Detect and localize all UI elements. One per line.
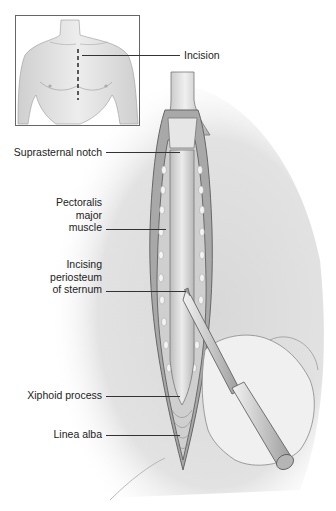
illustration: Incision Suprasternal notch Pectoralis m… xyxy=(0,0,336,511)
label-line: of sternum xyxy=(0,283,102,296)
suprasternal-notch-leader-line xyxy=(106,152,180,153)
label-incision: Incision xyxy=(184,49,220,62)
label-xiphoid-process: Xiphoid process xyxy=(0,389,102,402)
pectoralis-leader-line xyxy=(106,229,166,230)
label-suprasternal-notch: Suprasternal notch xyxy=(0,146,102,159)
label-linea-alba: Linea alba xyxy=(0,428,102,441)
inset-torso xyxy=(16,16,140,126)
sternum xyxy=(170,150,194,405)
linea-alba-leader-line xyxy=(106,435,180,436)
label-line: muscle xyxy=(0,221,102,234)
xiphoid-leader-line xyxy=(106,396,180,397)
periosteum-leader-line xyxy=(106,291,186,292)
label-line: periosteum xyxy=(0,271,102,284)
label-line: major xyxy=(0,209,102,222)
suprasternal-notch-area xyxy=(168,118,197,148)
incision-leader-line xyxy=(82,55,180,56)
label-incising-periosteum: Incising periosteum of sternum xyxy=(0,258,102,296)
label-line: Incising xyxy=(0,258,102,271)
label-pectoralis-major-muscle: Pectoralis major muscle xyxy=(0,196,102,234)
label-line: Pectoralis xyxy=(0,196,102,209)
